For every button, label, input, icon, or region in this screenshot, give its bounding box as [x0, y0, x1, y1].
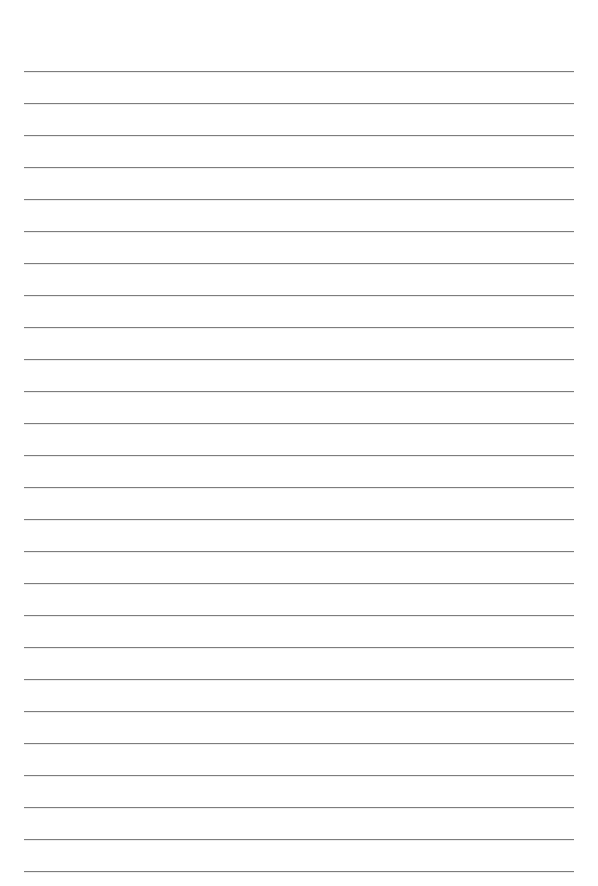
ruled-line [24, 679, 574, 680]
ruled-line [24, 263, 574, 264]
ruled-line [24, 103, 574, 104]
ruled-line [24, 327, 574, 328]
ruled-line [24, 871, 574, 872]
ruled-line [24, 423, 574, 424]
ruled-line [24, 775, 574, 776]
ruled-line [24, 807, 574, 808]
ruled-line [24, 487, 574, 488]
ruled-line [24, 359, 574, 360]
ruled-line [24, 647, 574, 648]
ruled-line [24, 743, 574, 744]
ruled-line [24, 551, 574, 552]
ruled-line [24, 199, 574, 200]
ruled-line [24, 455, 574, 456]
ruled-line [24, 519, 574, 520]
lined-paper-page [0, 0, 598, 886]
ruled-line [24, 583, 574, 584]
ruled-line [24, 295, 574, 296]
ruled-line [24, 167, 574, 168]
ruled-line [24, 391, 574, 392]
ruled-line [24, 711, 574, 712]
ruled-line [24, 71, 574, 72]
ruled-line [24, 231, 574, 232]
ruled-line [24, 615, 574, 616]
ruled-line [24, 839, 574, 840]
ruled-line [24, 135, 574, 136]
